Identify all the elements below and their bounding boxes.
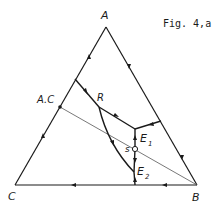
arrow-icon [71,183,76,187]
point-r-label: R [97,92,104,103]
point-s-label: s [125,144,130,154]
vertex-b-label: B [192,191,200,204]
arrow-icon [162,183,167,187]
point-ac-dot [58,105,62,109]
point-ac-label: A.C [36,94,54,105]
vertex-a-label: A [100,9,109,22]
arrow-icon [133,135,137,140]
point-e1-label: E [140,132,147,145]
ternary-diagram: A C B A.C R E 1 E 2 s Fig. 4,a [0,0,223,221]
triangle [15,27,197,185]
vertex-c-label: C [8,190,16,203]
arrow-icon [133,158,137,163]
point-e1-subscript: 1 [148,140,152,148]
point-e2-subscript: 2 [145,173,150,181]
figure-caption: Fig. 4,a [163,18,211,29]
arrow-icon [110,140,114,146]
point-s-marker [132,146,137,151]
edge-ab [106,27,197,185]
edge-arrows [41,54,184,187]
point-e2-label: E [137,165,144,178]
